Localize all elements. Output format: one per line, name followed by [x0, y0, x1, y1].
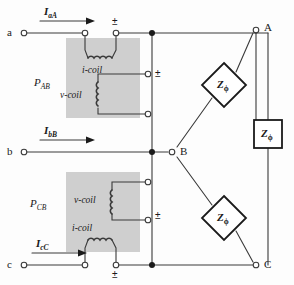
- vcoil-label-pcb: v-coil: [74, 196, 96, 206]
- wire-A-to-Zab: [236, 33, 253, 72]
- current-arrowhead-bB: [86, 137, 95, 144]
- polarity-mark-icoil-pcb: ±: [112, 270, 118, 280]
- node-label-B: B: [180, 146, 187, 157]
- node-label-C: C: [264, 259, 271, 270]
- wire-B-to-Zbc: [177, 157, 212, 205]
- vcoil-label-pab: v-coil: [60, 91, 82, 101]
- wire-Zbc-to-C: [236, 231, 253, 262]
- terminal-node-C[interactable]: [253, 262, 259, 268]
- impedance-symbol-ac: Z: [261, 127, 268, 139]
- current-subscript-cC: cC: [40, 243, 48, 252]
- wattmeter-subscript-pab: AB: [41, 82, 50, 91]
- current-arrowhead-aA: [86, 18, 95, 25]
- terminal-node-a[interactable]: [21, 30, 27, 36]
- impedance-symbol-bc: Z: [217, 211, 224, 223]
- current-subscript-aA: aA: [48, 11, 57, 20]
- wire-Zab-to-B: [177, 98, 212, 147]
- junction-dot-b-line: [149, 149, 155, 155]
- wattmeter-label-pcb: PCB: [30, 198, 46, 212]
- terminal-node-b[interactable]: [21, 149, 27, 155]
- terminal-node-A[interactable]: [253, 27, 259, 33]
- impedance-subscript-ab: ϕ: [224, 84, 229, 93]
- terminal-vcoil-pab-bottom[interactable]: [145, 111, 151, 117]
- terminal-label-c: c: [7, 259, 12, 270]
- polarity-mark-vcoil-pab: ±: [155, 69, 161, 79]
- icoil-label-pcb: i-coil: [72, 224, 92, 234]
- terminal-icoil-pab-left[interactable]: [82, 30, 88, 36]
- wattmeter-box-pab: [66, 38, 140, 118]
- terminal-vcoil-pcb-top[interactable]: [145, 179, 151, 185]
- wattmeter-symbol-pab: P: [34, 76, 41, 88]
- impedance-label-ab: Zϕ: [217, 79, 229, 93]
- wattmeter-subscript-pcb: CB: [37, 203, 47, 212]
- impedance-subscript-bc: ϕ: [224, 217, 229, 226]
- terminal-node-B[interactable]: [169, 149, 175, 155]
- current-label-cC: IcC: [36, 238, 49, 252]
- impedance-label-ac: Zϕ: [261, 128, 273, 142]
- terminal-icoil-pcb-right[interactable]: [113, 262, 119, 268]
- impedance-subscript-ac: ϕ: [268, 133, 273, 142]
- terminal-icoil-pcb-left[interactable]: [82, 262, 88, 268]
- terminal-label-b: b: [7, 146, 13, 157]
- wattmeter-box-pcb: [66, 172, 140, 252]
- wattmeter-symbol-pcb: P: [30, 197, 37, 209]
- wattmeter-label-pab: PAB: [34, 77, 50, 91]
- terminal-icoil-pab-right[interactable]: [113, 30, 119, 36]
- current-label-aA: IaA: [44, 6, 57, 20]
- terminal-label-a: a: [7, 27, 12, 38]
- terminal-vcoil-pcb-bottom[interactable]: [145, 217, 151, 223]
- icoil-label-pab: i-coil: [82, 66, 102, 76]
- impedance-symbol-ab: Z: [217, 78, 224, 90]
- current-label-bB: IbB: [44, 125, 57, 139]
- current-subscript-bB: bB: [48, 130, 57, 139]
- circuit-diagram-canvas: a b c A B C IaA IbB IcC PAB PCB i-coil v…: [0, 0, 294, 285]
- polarity-mark-vcoil-pcb: ±: [155, 211, 161, 221]
- junction-dot-top-bus: [149, 30, 155, 36]
- junction-dot-bottom-bus: [149, 262, 155, 268]
- impedance-label-bc: Zϕ: [217, 212, 229, 226]
- polarity-mark-icoil-pab: ±: [112, 17, 118, 27]
- node-label-A: A: [264, 22, 272, 33]
- terminal-vcoil-pab-top[interactable]: [145, 71, 151, 77]
- terminal-node-c[interactable]: [21, 262, 27, 268]
